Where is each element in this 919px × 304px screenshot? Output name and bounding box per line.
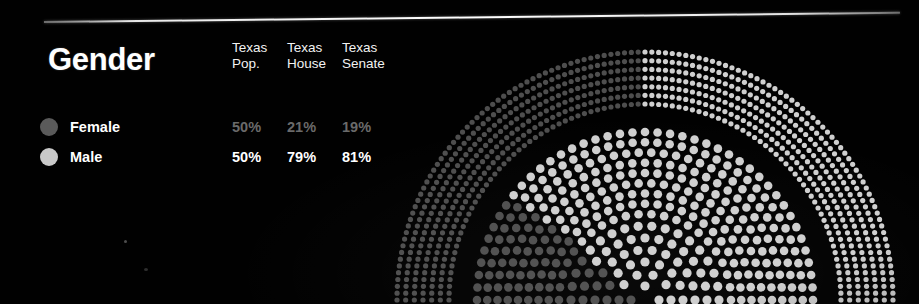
seat-dot-female <box>569 79 574 84</box>
seat-dot-female <box>590 295 599 304</box>
seat-dot-male <box>841 180 846 185</box>
seat-dot-female <box>500 150 505 155</box>
seat-dot-male <box>838 297 843 302</box>
seat-dot-male <box>718 258 727 267</box>
seat-dot-female <box>480 110 485 115</box>
seat-dot-male <box>872 277 877 282</box>
seat-dot-female <box>474 115 479 120</box>
seat-dot-male <box>871 263 876 268</box>
seat-dot-female <box>456 237 461 242</box>
seat-dot-male <box>845 230 850 235</box>
seat-dot-female <box>608 78 613 83</box>
seat-dot-male <box>663 50 668 55</box>
seat-dot-female <box>608 104 613 109</box>
legend-row-male[interactable]: Male 50% 79% 81% <box>40 142 397 172</box>
seat-dot-male <box>872 204 877 209</box>
seat-dot-male <box>847 297 852 302</box>
seat-dot-female <box>509 131 514 136</box>
value-female-texas-pop: 50% <box>232 119 287 135</box>
seat-dot-female <box>435 162 440 167</box>
seat-dot-male <box>840 217 845 222</box>
seat-dot-female <box>424 179 429 184</box>
seat-dot-male <box>788 283 797 292</box>
seat-dot-female <box>451 169 456 174</box>
seat-dot-male <box>847 291 852 296</box>
seat-dot-male <box>730 259 739 268</box>
seat-dot-male <box>828 193 833 198</box>
seat-dot-female <box>608 69 613 74</box>
seat-dot-male <box>743 176 752 185</box>
seat-dot-male <box>683 70 688 75</box>
seat-dot-male <box>684 155 693 164</box>
seat-dot-female <box>457 175 462 180</box>
seat-dot-female <box>548 225 557 234</box>
seat-dot-female <box>626 295 635 304</box>
seat-dot-male <box>844 263 849 268</box>
seat-dot-male <box>814 131 819 136</box>
seat-dot-male <box>780 247 789 256</box>
seat-dot-male <box>546 157 555 166</box>
seat-dot-male <box>649 49 654 54</box>
seat-dot-male <box>759 109 764 114</box>
seat-dot-male <box>746 131 751 136</box>
seat-dot-male <box>656 93 661 98</box>
seat-dot-female <box>485 271 494 280</box>
seat-dot-female <box>433 257 438 262</box>
seat-dot-female <box>563 109 568 114</box>
seat-dot-male <box>847 237 852 242</box>
seat-dot-female <box>614 295 623 304</box>
seat-dot-male <box>526 203 535 212</box>
seat-dot-male <box>838 284 843 289</box>
seat-dot-male <box>881 277 886 282</box>
seat-dot-male <box>723 63 728 68</box>
seat-dot-male <box>641 158 650 167</box>
seat-dot-male <box>757 223 766 232</box>
seat-dot-female <box>488 138 493 143</box>
seat-dot-male <box>873 291 878 296</box>
seat-dot-female <box>438 237 443 242</box>
seat-dot-male <box>596 236 605 245</box>
seat-dot-male <box>543 215 552 224</box>
seat-dot-male <box>710 86 715 91</box>
seat-dot-male <box>802 143 807 148</box>
seat-dot-female <box>501 161 506 166</box>
seat-dot-female <box>450 205 455 210</box>
seat-dot-female <box>636 76 641 81</box>
seat-dot-female <box>486 117 491 122</box>
seat-dot-male <box>863 277 868 282</box>
seat-dot-male <box>850 250 855 255</box>
seat-dot-female <box>438 297 443 302</box>
seat-dot-female <box>531 213 540 222</box>
seat-dot-male <box>678 142 687 151</box>
seat-dot-male <box>690 168 699 177</box>
seat-dot-male <box>869 257 874 262</box>
seat-dot-female <box>525 99 530 104</box>
seat-dot-male <box>824 224 829 229</box>
seat-dot-male <box>837 174 842 179</box>
seat-dot-female <box>582 111 587 116</box>
seat-dot-male <box>592 178 601 187</box>
seat-dot-female <box>437 192 442 197</box>
seat-dot-male <box>553 177 562 186</box>
seat-dot-male <box>634 148 643 157</box>
seat-dot-male <box>775 213 784 222</box>
seat-dot-female <box>489 223 498 232</box>
seat-dot-male <box>744 270 753 279</box>
seat-dot-male <box>777 110 782 115</box>
seat-dot-female <box>530 258 539 267</box>
seat-dot-male <box>597 187 606 196</box>
seat-dot-male <box>634 179 643 188</box>
seat-dot-male <box>841 250 846 255</box>
seat-dot-male <box>678 174 687 183</box>
seat-dot-male <box>858 243 863 248</box>
seat-dot-male <box>689 178 698 187</box>
seat-dot-male <box>775 131 780 136</box>
seat-dot-male <box>702 173 711 182</box>
legend-row-female[interactable]: Female 50% 21% 19% <box>40 112 397 142</box>
seat-dot-male <box>807 176 812 181</box>
seat-dot-male <box>856 211 861 216</box>
seat-dot-male <box>825 205 830 210</box>
seat-dot-male <box>741 99 746 104</box>
seat-dot-female <box>535 247 544 256</box>
seat-dot-male <box>526 173 535 182</box>
